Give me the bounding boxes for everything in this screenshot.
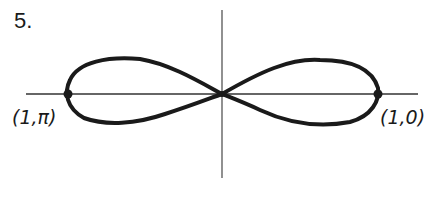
- label-1-pi: (1,π): [12, 106, 56, 128]
- polar-graph: (1,0) (1,π): [0, 0, 430, 213]
- origin-point: [219, 91, 225, 97]
- label-1-0: (1,0): [380, 106, 425, 128]
- point-1-0: [374, 90, 383, 99]
- left-lobe: [67, 58, 222, 123]
- point-1-pi: [64, 90, 73, 99]
- right-lobe: [222, 60, 378, 125]
